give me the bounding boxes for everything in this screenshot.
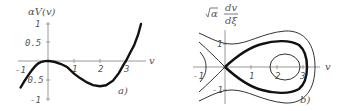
y-axis-label: αV(v) bbox=[28, 6, 56, 17]
x-axis-label: v bbox=[149, 55, 155, 66]
y-axis-label: √α α dv dξ bbox=[206, 2, 238, 26]
y-tick-0.5: 0.5 bbox=[25, 38, 41, 48]
y-tick-1: 1 bbox=[217, 39, 222, 49]
panel-b: 1 -1 -1 1 2 3 √α α dv dξ v b) bbox=[193, 2, 331, 105]
y-tick-1: 1 bbox=[35, 19, 40, 29]
x-tick-2: 2 bbox=[98, 64, 103, 74]
y-tick-neg-1: -1 bbox=[212, 85, 223, 95]
svg-text:α: α bbox=[211, 8, 218, 19]
x-tick-neg-1: -1 bbox=[15, 65, 26, 75]
panel-a: 1 0.5 -0.5 -1 -1 1 2 3 αV(v) v a) bbox=[15, 6, 155, 105]
figure: 1 0.5 -0.5 -1 -1 1 2 3 αV(v) v a) 1 -1 -… bbox=[0, 0, 343, 111]
svg-text:dξ: dξ bbox=[225, 15, 237, 26]
x-axis-label: v bbox=[325, 61, 331, 72]
x-tick-1: 1 bbox=[249, 71, 254, 81]
svg-text:dv: dv bbox=[225, 2, 237, 13]
panel-label-a: a) bbox=[118, 85, 128, 96]
y-tick-neg-1: -1 bbox=[30, 95, 41, 105]
